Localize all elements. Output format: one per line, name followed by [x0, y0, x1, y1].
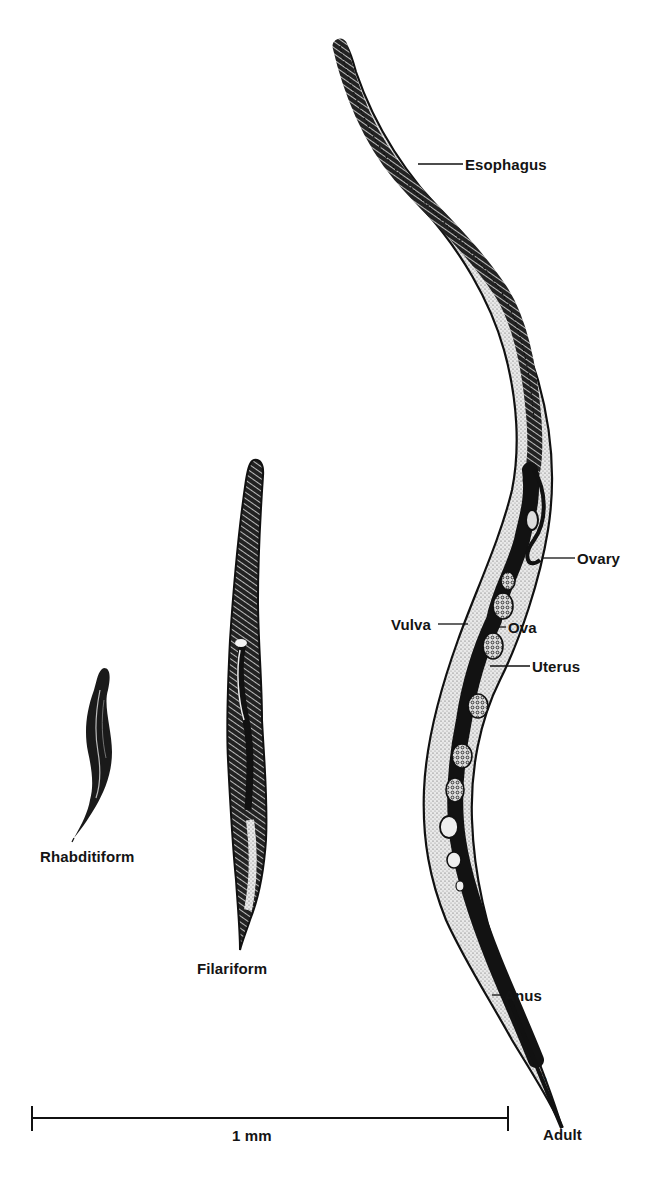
- label-adult: Adult: [543, 1127, 582, 1142]
- leader-rhabditiform: [72, 838, 74, 842]
- adult-worm: KG: [337, 41, 562, 1128]
- label-vulva: Vulva: [391, 617, 431, 632]
- label-uterus: Uterus: [532, 659, 580, 674]
- scale-bar-label: 1 mm: [232, 1128, 272, 1143]
- nematode-diagram: KG: [0, 0, 656, 1184]
- label-ova: Ova: [508, 620, 537, 635]
- label-esophagus: Esophagus: [465, 157, 547, 172]
- label-anus: Anus: [504, 988, 542, 1003]
- filariform-larva: [227, 460, 266, 950]
- label-filariform: Filariform: [197, 961, 267, 976]
- label-rhabditiform: Rhabditiform: [40, 849, 135, 864]
- label-ovary: Ovary: [577, 551, 620, 566]
- rhabditiform-larva: [74, 668, 112, 838]
